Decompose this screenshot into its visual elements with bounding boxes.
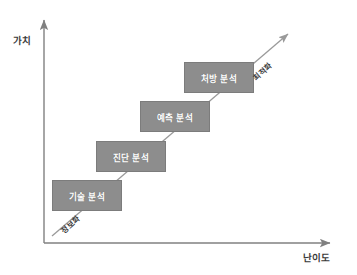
diagram-canvas: 가치 난이도 기술 분석 진단 분석 예측 분석 처방 분석 정보화 최적화 [0,0,357,275]
stage-box-2-label: 진단 분석 [113,151,149,163]
stage-box-1-label: 기술 분석 [69,190,105,202]
stage-box-1[interactable]: 기술 분석 [52,180,122,211]
x-axis-label: 난이도 [303,250,331,264]
stage-box-4-label: 처방 분석 [201,72,237,84]
stage-box-3[interactable]: 예측 분석 [140,101,210,132]
diagram-graphics [0,0,357,275]
stage-box-2[interactable]: 진단 분석 [96,141,166,172]
y-axis-label: 가치 [13,33,31,47]
stage-box-4[interactable]: 처방 분석 [184,62,254,93]
stage-box-3-label: 예측 분석 [157,111,193,123]
